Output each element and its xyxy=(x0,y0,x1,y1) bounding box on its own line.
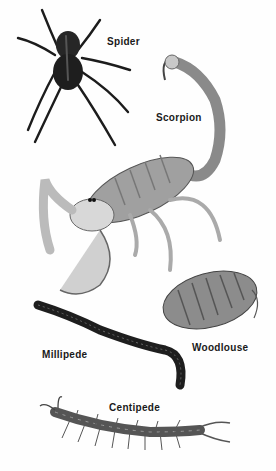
woodlouse-label: Woodlouse xyxy=(192,342,248,353)
illustration-drawing xyxy=(0,0,276,471)
spider-drawing xyxy=(18,10,130,145)
scorpion-label: Scorpion xyxy=(156,112,202,123)
millipede-drawing xyxy=(38,305,181,385)
centipede-label: Centipede xyxy=(109,402,160,413)
millipede-label: Millipede xyxy=(42,349,87,360)
arthropod-illustration: Spider Scorpion Woodlouse Millipede Cent… xyxy=(0,0,276,471)
scorpion-drawing xyxy=(43,55,220,294)
woodlouse-drawing xyxy=(157,261,264,338)
spider-label: Spider xyxy=(107,36,140,47)
